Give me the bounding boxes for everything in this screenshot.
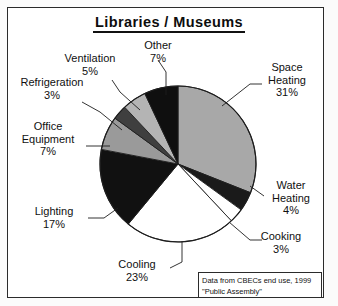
slice-label-cooling: Cooling 23% xyxy=(104,258,170,283)
pie-slice-group xyxy=(100,86,256,242)
slice-label-cooking: Cooking 3% xyxy=(250,230,312,255)
leader-line-lighting xyxy=(88,208,118,218)
leader-line-space-heating xyxy=(222,84,262,106)
slice-label-lighting: Lighting 17% xyxy=(22,205,86,230)
leader-line-cooling xyxy=(170,242,182,268)
source-note-line1: Data from CBECs end use, 1999 xyxy=(202,275,318,286)
slice-label-other: Other 7% xyxy=(128,39,188,64)
source-note-box: Data from CBECs end use, 1999 "Public As… xyxy=(198,272,322,298)
slice-label-refrigeration: Refrigeration 3% xyxy=(12,76,92,101)
scanned-page-background: Libraries / Museums Other 7 xyxy=(0,0,338,306)
slice-label-office-equipment: Office Equipment 7% xyxy=(10,120,86,158)
slice-label-space-heating: Space Heating 31% xyxy=(258,61,316,99)
slice-label-water-heating: Water Heating 4% xyxy=(262,179,320,217)
source-note-line2: "Public Assembly" xyxy=(202,286,318,297)
slice-label-ventilation: Ventilation 5% xyxy=(52,52,128,77)
